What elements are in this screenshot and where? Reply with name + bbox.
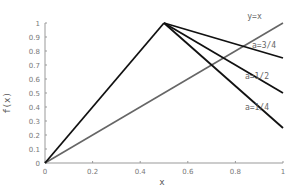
y-tick-label: 1 [36,20,40,28]
y-tick-label: 0.3 [29,118,40,126]
series-annotation: y=x [247,12,262,21]
x-tick-label: 0.8 [230,168,241,176]
y-tick-label: 0.5 [29,90,40,98]
series-annotation: a=1/4 [245,103,269,112]
x-axis-label: x [159,177,165,187]
x-tick-label: 0.4 [135,168,147,176]
x-tick-label: 1 [281,168,285,176]
x-tick-label: 0 [43,168,47,176]
series-annotation: a=1/2 [245,72,269,81]
series-line [45,23,283,163]
annotations: y=xa=3/4a=1/2a=1/4 [245,12,276,112]
x-tick-label: 0.6 [182,168,194,176]
y-tick-label: 0.4 [29,104,41,112]
y-tick-label: 0.7 [29,62,40,70]
y-tick-label: 0.1 [29,146,40,154]
tent-map-chart: 00.20.40.60.8100.10.20.30.40.50.60.70.80… [0,0,303,190]
x-tick-label: 0.2 [87,168,98,176]
y-tick-label: 0.9 [29,34,40,42]
y-tick-label: 0 [36,160,40,168]
series-annotation: a=3/4 [252,41,276,50]
y-tick-label: 0.2 [29,132,40,140]
plot-series [45,23,283,163]
series-line [45,23,164,163]
y-axis-label: f(x) [2,92,12,114]
y-tick-label: 0.8 [29,48,40,56]
y-tick-label: 0.6 [29,76,41,84]
